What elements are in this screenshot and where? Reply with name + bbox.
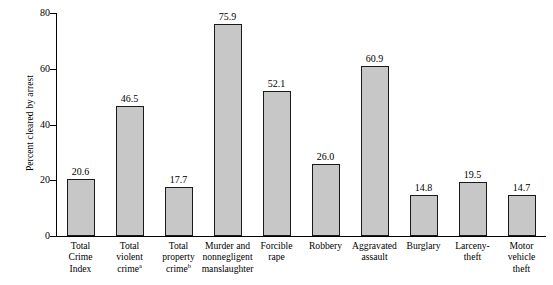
bar: [116, 106, 144, 236]
bar-value-label: 75.9: [204, 11, 252, 22]
x-axis-category-label-line: rape: [222, 251, 332, 262]
x-axis-category-label-line: vehicle: [467, 251, 553, 262]
y-axis-tick-label: 80: [18, 8, 50, 18]
y-axis-tick-mark: [50, 236, 57, 237]
y-axis-tick-mark: [50, 180, 57, 181]
x-axis-category-label: Motorvehicletheft: [467, 240, 553, 274]
y-axis-tick-mark: [50, 125, 57, 126]
bar: [508, 195, 536, 236]
y-axis-tick-label: 40: [18, 120, 50, 130]
bar-value-label: 46.5: [106, 93, 154, 104]
bar: [165, 187, 193, 236]
bar: [361, 66, 389, 236]
x-axis-category-label-line: assault: [320, 251, 430, 262]
bar-value-label: 17.7: [155, 174, 203, 185]
bar-value-label: 52.1: [253, 78, 301, 89]
x-axis-category-label-line: manslaughter: [173, 263, 283, 274]
y-axis-tick-mark: [50, 13, 57, 14]
bar-value-label: 14.8: [400, 182, 448, 193]
x-axis-category-label-line: theft: [467, 263, 553, 274]
y-axis-tick-mark: [50, 69, 57, 70]
bar: [263, 91, 291, 236]
bar: [67, 179, 95, 236]
bar-value-label: 60.9: [351, 53, 399, 64]
bar: [410, 195, 438, 236]
bar: [459, 182, 487, 236]
x-axis-category-label-line: Motor: [467, 240, 553, 251]
bar-value-label: 26.0: [302, 151, 350, 162]
bar: [214, 24, 242, 236]
bar-value-label: 20.6: [57, 166, 105, 177]
y-axis-tick-label: 60: [18, 64, 50, 74]
y-axis-tick-label: 20: [18, 175, 50, 185]
bar-value-label: 14.7: [498, 182, 546, 193]
bar-value-label: 19.5: [449, 169, 497, 180]
x-axis-line: [56, 236, 546, 237]
bar-chart: Percent cleared by arrest 020406080 20.6…: [0, 0, 553, 285]
bar: [312, 164, 340, 236]
